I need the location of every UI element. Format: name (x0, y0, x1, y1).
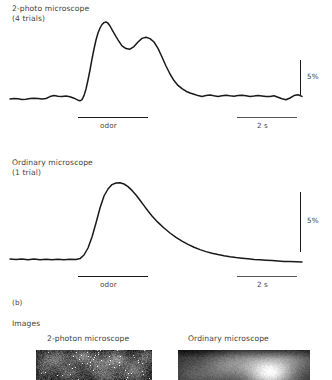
amplitude-scale-bar-ordinary (300, 192, 301, 252)
time-label-two-photon: 2 s (257, 121, 268, 131)
panel-two-photon-trace: 2-photo microscope (4 trials) odor 2 s 5… (0, 0, 332, 140)
amplitude-label-two-photon: 5% (307, 72, 319, 82)
amplitude-label-ordinary: 5% (307, 216, 319, 226)
ordinary-microscope-image (178, 350, 310, 380)
two-photon-microscope-image (36, 350, 152, 380)
panel-ordinary-trace: Ordinary microscope (1 trial) odor 2 s 5… (0, 150, 332, 295)
two-photon-trace-curve (0, 0, 332, 140)
amplitude-scale-bar-two-photon (300, 60, 301, 95)
time-scale-bar-ordinary (237, 276, 297, 277)
odor-label-ordinary: odor (100, 280, 117, 290)
image-caption-two-photon: 2-photon microscope (47, 334, 129, 344)
ordinary-trace-curve (0, 150, 332, 295)
time-scale-bar-two-photon (237, 117, 297, 118)
figure-root: 2-photo microscope (4 trials) odor 2 s 5… (0, 0, 332, 380)
odor-bar-two-photon (78, 117, 148, 118)
images-heading: Images (12, 319, 40, 329)
time-label-ordinary: 2 s (257, 280, 268, 290)
odor-bar-ordinary (78, 276, 148, 277)
panel-b-tag: (b) (12, 298, 22, 308)
image-caption-ordinary: Ordinary microscope (188, 334, 269, 344)
odor-label-two-photon: odor (100, 121, 117, 131)
